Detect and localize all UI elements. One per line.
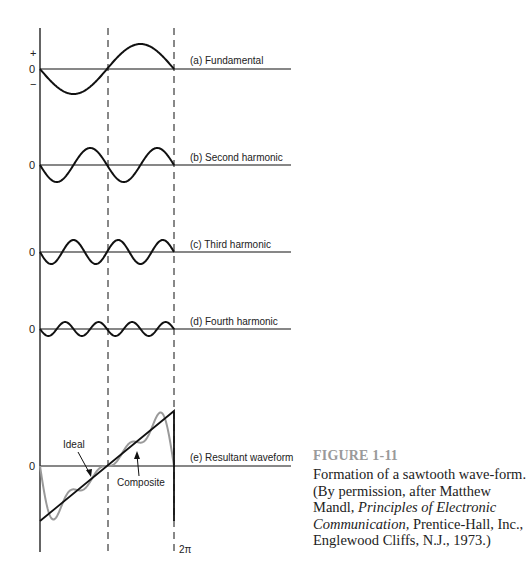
zero-label-d: 0 (29, 323, 35, 335)
caption-body: Formation of a sawtooth wave-form. (By p… (313, 466, 528, 549)
ideal-arrowhead-icon (86, 469, 92, 477)
plus-label: + (30, 47, 36, 59)
ideal-label: Ideal (63, 439, 85, 450)
zero-label-e: 0 (29, 460, 35, 472)
figure-number: FIGURE 1-11 (313, 448, 528, 464)
panel-label-e: (e) Resultant waveform (190, 452, 293, 463)
figure-caption: FIGURE 1-11 Formation of a sawtooth wave… (313, 448, 528, 549)
panel-label-c: (c) Third harmonic (190, 239, 271, 250)
zero-label-c: 0 (29, 246, 35, 258)
period-label: 2π (179, 544, 192, 555)
panel-label-a: (a) Fundamental (190, 55, 263, 66)
composite-arrowhead-icon (134, 451, 140, 459)
zero-label-a: 0 (29, 63, 35, 75)
composite-label: Composite (117, 477, 165, 488)
minus-label: − (30, 78, 36, 90)
zero-label-b: 0 (29, 159, 35, 171)
panel-label-d: (d) Fourth harmonic (190, 316, 278, 327)
panel-label-b: (b) Second harmonic (190, 152, 283, 163)
